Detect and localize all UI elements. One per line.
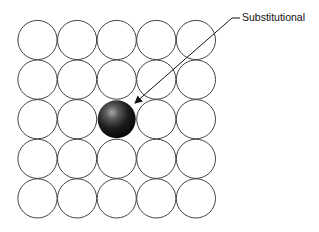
- host-atom: [97, 60, 136, 99]
- host-atom: [176, 100, 215, 139]
- host-atom: [97, 179, 136, 218]
- host-atom: [58, 139, 97, 178]
- host-atom: [137, 139, 176, 178]
- host-atom: [58, 60, 97, 99]
- substitutional-atom-sphere: [98, 100, 136, 138]
- host-atom: [176, 20, 215, 59]
- host-atom: [58, 20, 97, 59]
- host-atom: [176, 139, 215, 178]
- host-atom: [18, 179, 57, 218]
- host-atom: [137, 100, 176, 139]
- host-atom: [97, 20, 136, 59]
- host-atom: [176, 179, 215, 218]
- host-atom: [176, 60, 215, 99]
- host-atom: [18, 60, 57, 99]
- substitutional-label: Substitutional: [242, 11, 305, 23]
- host-atom: [137, 20, 176, 59]
- host-atom: [137, 179, 176, 218]
- lattice-diagram: [0, 0, 319, 232]
- host-atom: [137, 60, 176, 99]
- host-atom: [58, 179, 97, 218]
- substitutional-atom: [98, 100, 136, 138]
- host-atom: [18, 139, 57, 178]
- host-atom: [58, 100, 97, 139]
- host-atom: [18, 100, 57, 139]
- host-atom: [97, 139, 136, 178]
- host-atom: [18, 20, 57, 59]
